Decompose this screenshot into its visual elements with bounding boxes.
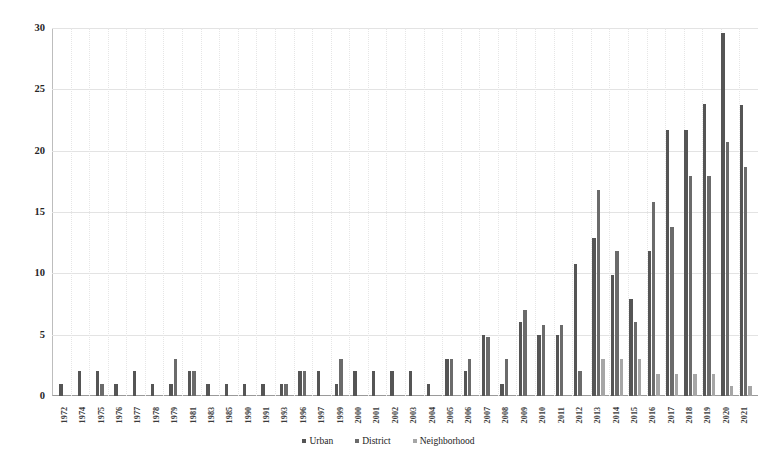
x-axis-label-cell: 1999	[332, 397, 350, 437]
bar-group	[350, 28, 368, 396]
x-axis-tick-label: 1999	[337, 407, 345, 424]
x-axis-label-cell: 1975	[93, 397, 111, 437]
bar	[689, 176, 692, 396]
y-axis-tick-label: 30	[35, 23, 53, 34]
legend-item[interactable]: District	[355, 436, 391, 446]
x-axis-label-cell: 2002	[387, 397, 405, 437]
bar	[519, 322, 522, 396]
x-axis-tick-label: 1996	[300, 407, 308, 424]
x-axis-label-cell: 1978	[148, 397, 166, 437]
bar	[666, 130, 669, 396]
bar-group	[461, 28, 479, 396]
bar	[280, 384, 283, 396]
x-axis-tick-label: 2006	[466, 407, 474, 424]
bar	[730, 386, 733, 396]
x-axis-label-cell: 2021	[736, 397, 754, 437]
bar	[445, 359, 448, 396]
x-axis-label-cell: 1972	[56, 397, 74, 437]
bar-group	[93, 28, 111, 396]
x-axis-tick-label: 2012	[576, 407, 584, 424]
x-axis-label-cell: 1991	[258, 397, 276, 437]
bar	[390, 371, 393, 396]
x-axis-tick-label: 2020	[723, 407, 731, 424]
bar	[703, 104, 706, 396]
bar	[556, 335, 559, 396]
x-axis-label-cell: 2013	[589, 397, 607, 437]
y-axis-tick-label: 0	[40, 391, 52, 402]
bar-group	[277, 28, 295, 396]
y-axis-tick-label: 25	[35, 84, 53, 95]
x-axis-label-cell: 1977	[130, 397, 148, 437]
bar	[537, 335, 540, 396]
x-axis-tick-label: 2008	[502, 407, 510, 424]
bar-group	[313, 28, 331, 396]
bar-group	[553, 28, 571, 396]
bar	[192, 371, 195, 396]
x-axis-label-cell: 1974	[74, 397, 92, 437]
bar-group	[185, 28, 203, 396]
x-axis-label-cell: 2000	[350, 397, 368, 437]
bar	[78, 371, 81, 396]
bar	[574, 264, 577, 396]
x-axis-tick-label: 2018	[686, 407, 694, 424]
bar-group	[736, 28, 754, 396]
bar	[684, 130, 687, 396]
bar-group	[571, 28, 589, 396]
x-axis-tick-label: 2005	[447, 407, 455, 424]
y-axis-tick-label: 20	[35, 145, 53, 156]
bar	[611, 275, 614, 396]
bar	[648, 251, 651, 396]
x-axis-label-cell: 2016	[645, 397, 663, 437]
bar-group	[258, 28, 276, 396]
bar-group	[387, 28, 405, 396]
bar	[298, 371, 301, 396]
bar-group	[479, 28, 497, 396]
bar	[597, 190, 600, 396]
bar	[634, 322, 637, 396]
x-axis-label-cell: 2010	[534, 397, 552, 437]
bar-group	[681, 28, 699, 396]
bar	[133, 371, 136, 396]
legend-item[interactable]: Neighborhood	[413, 436, 475, 446]
x-axis-tick-label: 2001	[374, 407, 382, 424]
bar-group	[718, 28, 736, 396]
bar-group	[663, 28, 681, 396]
bar	[409, 371, 412, 396]
x-axis-tick-label: 1978	[153, 407, 161, 424]
x-axis-tick-label: 1993	[282, 407, 290, 424]
x-axis-tick-label: 2002	[392, 407, 400, 424]
bar-group	[111, 28, 129, 396]
bar	[542, 325, 545, 396]
x-axis-tick-label: 2015	[631, 407, 639, 424]
x-axis-label-cell: 2019	[700, 397, 718, 437]
bar	[261, 384, 264, 396]
x-axis-label-cell: 1976	[111, 397, 129, 437]
bar	[486, 337, 489, 396]
x-axis-tick-label: 2004	[429, 407, 437, 424]
x-axis-tick-label: 2000	[355, 407, 363, 424]
bar-group	[240, 28, 258, 396]
x-axis-tick-label: 2007	[484, 407, 492, 424]
legend-label: Urban	[309, 436, 333, 446]
x-axis-label-cell: 1990	[240, 397, 258, 437]
bar-group	[534, 28, 552, 396]
bar	[284, 384, 287, 396]
x-axis-label-cell: 2012	[571, 397, 589, 437]
x-axis-label-cell: 2004	[424, 397, 442, 437]
bar-group	[442, 28, 460, 396]
x-axis-label-cell: 1993	[277, 397, 295, 437]
x-axis-labels: 1972197419751976197719781979198119831985…	[52, 397, 758, 437]
y-axis-tick-label: 5	[40, 329, 52, 340]
legend-item[interactable]: Urban	[302, 436, 333, 446]
legend-label: Neighborhood	[420, 436, 475, 446]
bar-group	[589, 28, 607, 396]
x-axis-label-cell: 1983	[203, 397, 221, 437]
bar	[748, 386, 751, 396]
bar-group	[74, 28, 92, 396]
bar	[560, 325, 563, 396]
x-axis-label-cell: 2020	[718, 397, 736, 437]
x-axis-label-cell: 2001	[369, 397, 387, 437]
x-axis-tick-label: 1983	[208, 407, 216, 424]
bar	[670, 227, 673, 396]
bar-group	[369, 28, 387, 396]
